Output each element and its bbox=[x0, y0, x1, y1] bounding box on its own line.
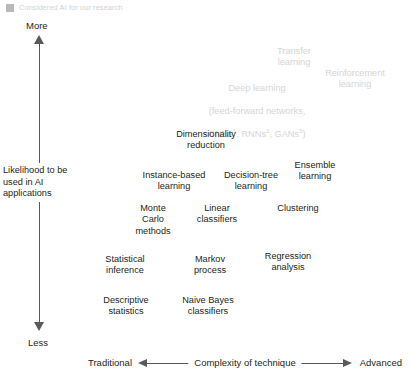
data-label-transfer-learning: Transfer learning bbox=[268, 46, 320, 69]
data-label-instance-based-learning: Instance-based learning bbox=[133, 170, 215, 193]
y-axis-top-label: More bbox=[26, 20, 48, 31]
y-axis-arrow-down-icon bbox=[34, 322, 44, 331]
data-label-linear-classifiers: Linear classifiers bbox=[186, 203, 248, 226]
data-label-regression-analysis: Regression analysis bbox=[254, 251, 322, 274]
x-axis-arrow-right-icon bbox=[343, 359, 352, 367]
deep-learning-gans: , GANs bbox=[269, 129, 299, 139]
data-label-descriptive-statistics: Descriptive statistics bbox=[93, 295, 159, 318]
y-axis-title: Likelihood to be used in AI applications bbox=[3, 163, 81, 202]
deep-learning-line-2: (feed-forward networks, bbox=[193, 106, 321, 117]
data-label-dimensionality-reduction: Dimensionality reduction bbox=[164, 129, 248, 152]
data-label-naive-bayes-classifiers: Naive Bayes classifiers bbox=[172, 295, 244, 318]
x-axis-title: Complexity of technique bbox=[188, 357, 301, 368]
data-label-markov-process: Markov process bbox=[180, 254, 240, 277]
legend-label: Considered AI for our research bbox=[19, 3, 123, 12]
y-axis-bottom-label: Less bbox=[28, 337, 48, 348]
data-label-statistical-inference: Statistical inference bbox=[91, 254, 159, 277]
x-axis-left-label: Traditional bbox=[88, 357, 132, 368]
data-label-clustering: Clustering bbox=[267, 203, 329, 214]
x-axis-right-label: Advanced bbox=[360, 357, 402, 368]
x-axis: Traditional Complexity of technique Adva… bbox=[88, 355, 402, 371]
deep-learning-line-1: Deep learning bbox=[193, 83, 321, 94]
chart-legend: Considered AI for our research bbox=[6, 1, 123, 14]
data-label-decision-tree-learning: Decision-tree learning bbox=[212, 170, 290, 193]
data-label-ensemble-learning: Ensemble learning bbox=[283, 160, 347, 183]
deep-learning-close-paren: ) bbox=[303, 129, 306, 139]
legend-swatch-icon bbox=[6, 4, 14, 12]
data-label-monte-carlo-methods: Monte Carlo methods bbox=[125, 203, 181, 237]
ai-technique-quadrant-chart: Considered AI for our research More Less… bbox=[0, 0, 410, 379]
data-label-reinforcement-learning: Reinforcement learning bbox=[316, 68, 394, 91]
